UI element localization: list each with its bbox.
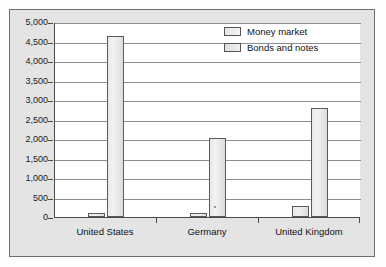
y-axis-tick-label: 1,000 <box>25 174 48 183</box>
y-axis-tick-mark <box>48 23 53 24</box>
x-axis: United StatesGermanyUnited Kingdom <box>54 218 360 248</box>
y-axis-tick-mark <box>48 160 53 161</box>
x-axis-tick-mark <box>156 218 157 223</box>
y-axis-tick-label: 1,500 <box>25 155 48 164</box>
y-axis-tick-label: 2,000 <box>25 135 48 144</box>
x-axis-tick-mark <box>359 218 360 223</box>
y-axis-tick-label: 4,000 <box>25 57 48 66</box>
y-axis-tick-mark <box>48 43 53 44</box>
scan-speck-artifact <box>214 206 216 208</box>
y-axis-tick-label: 5,000 <box>25 18 48 27</box>
y-axis-tick-label: 2,500 <box>25 116 48 125</box>
bar-chart: 5,0004,5004,0003,5003,0002,5002,0001,500… <box>9 9 375 257</box>
y-axis-tick-mark <box>48 218 53 219</box>
legend-swatch-icon-money-market <box>224 27 241 36</box>
y-axis-tick-mark <box>48 101 53 102</box>
legend-item-bonds-and-notes: Bonds and notes <box>224 42 356 53</box>
y-axis-tick-label: 4,500 <box>25 38 48 47</box>
y-axis-tick-label: 500 <box>33 194 48 203</box>
bar <box>107 36 124 217</box>
gridline <box>55 23 361 24</box>
bar <box>311 108 328 217</box>
y-axis-tick-label: 3,500 <box>25 77 48 86</box>
legend-label-bonds-and-notes: Bonds and notes <box>247 42 318 53</box>
gridline <box>55 101 361 102</box>
x-axis-category-label: United Kingdom <box>258 226 360 237</box>
y-axis-tick-mark <box>48 121 53 122</box>
gridline <box>55 82 361 83</box>
y-axis-tick-mark <box>48 140 53 141</box>
y-axis-tick-mark <box>48 179 53 180</box>
bar <box>292 206 309 217</box>
x-axis-tick-mark <box>258 218 259 223</box>
y-axis-tick-mark <box>48 199 53 200</box>
bar <box>209 138 226 217</box>
y-axis-tick-mark <box>48 62 53 63</box>
scanned-page: the outstanding value of Calculating Ret… <box>0 0 386 267</box>
y-axis-tick-mark <box>48 82 53 83</box>
legend-label-money-market: Money market <box>247 26 307 37</box>
chart-legend: Money market Bonds and notes <box>224 26 356 58</box>
legend-item-money-market: Money market <box>224 26 356 37</box>
y-axis-labels: 5,0004,5004,0003,5003,0002,5002,0001,500… <box>10 23 48 218</box>
y-axis-tick-label: 3,000 <box>25 96 48 105</box>
legend-swatch-icon-bonds-and-notes <box>224 43 241 52</box>
bar <box>190 213 207 217</box>
bar <box>88 213 105 217</box>
x-axis-category-label: United States <box>54 226 156 237</box>
x-axis-category-label: Germany <box>156 226 258 237</box>
gridline <box>55 62 361 63</box>
